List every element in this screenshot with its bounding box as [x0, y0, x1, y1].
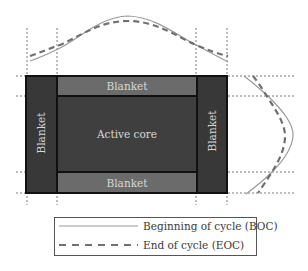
horizontal-power-profile	[30, 16, 228, 62]
top-blanket-label: Blanket	[107, 80, 149, 92]
reactor-core: Blanket Active core Blanket Blanket Blan…	[25, 75, 228, 194]
right-blanket-label: Blanket	[206, 110, 218, 152]
legend: Beginning of cycle (BOC) End of cycle (E…	[55, 218, 278, 256]
left-blanket-label: Blanket	[35, 112, 47, 154]
eoc-vertical-curve	[253, 76, 285, 193]
bottom-blanket-label: Blanket	[107, 177, 149, 189]
active-core-label: Active core	[96, 128, 157, 140]
core-diagram: Blanket Active core Blanket Blanket Blan…	[0, 0, 308, 271]
legend-eoc-label: End of cycle (EOC)	[143, 239, 244, 251]
legend-boc-label: Beginning of cycle (BOC)	[143, 220, 278, 232]
eoc-horizontal-curve	[30, 21, 228, 56]
vertical-power-profile	[244, 76, 293, 194]
boc-horizontal-curve	[30, 16, 228, 62]
